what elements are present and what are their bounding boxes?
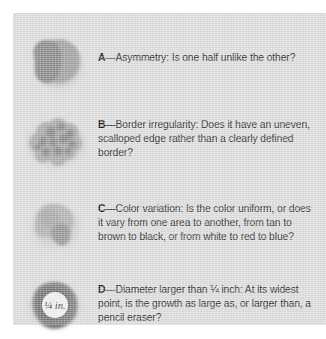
asymmetric-mole-illustration [13,26,98,96]
abcd-item-a-term: Asymmetry: [116,52,169,63]
abcd-item-a-text: A—Asymmetry: Is one half unlike the othe… [98,26,326,65]
abcd-item-b-term: Border irregularity: [116,119,199,130]
abcd-item-b-dash: — [105,119,115,130]
figure-panel: A—Asymmetry: Is one half unlike the othe… [13,13,326,325]
abcd-item-b-text: B—Border irregularity: Does it have an u… [98,105,326,161]
abcd-item-d-dash: — [105,284,115,295]
abcd-item-c-text: C—Color variation: Is the color uniform,… [98,189,326,245]
abcd-item-a: A—Asymmetry: Is one half unlike the othe… [13,26,326,96]
color-variation-mole-illustration [13,189,98,259]
irregular-border-mole-illustration [13,105,98,175]
abcd-item-d: ¼ in. D—Diameter larger than ¼ inch: At … [13,271,326,339]
abcd-item-a-dash: — [105,52,115,63]
quarter-inch-label: ¼ in. [44,300,65,311]
abcd-item-c-dash: — [105,203,115,214]
abcd-item-c-term: Color variation: [116,203,184,214]
abcd-item-c: C—Color variation: Is the color uniform,… [13,189,326,264]
abcd-item-a-body: Is one half unlike the other? [169,52,295,63]
abcd-item-d-text: D—Diameter larger than ¼ inch: At its wi… [98,271,326,326]
diameter-mole-illustration: ¼ in. [13,271,98,339]
abcd-item-b: B—Border irregularity: Does it have an u… [13,105,326,180]
abcd-item-d-term: Diameter larger than ¼ inch: [116,284,243,295]
